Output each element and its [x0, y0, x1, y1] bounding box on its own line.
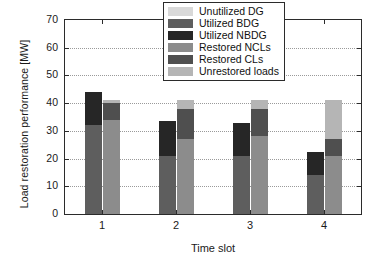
x-tick-mark: [102, 210, 103, 214]
y-tick-label: 40: [24, 96, 58, 108]
bar-segment: [307, 175, 324, 214]
y-tick-label: 60: [24, 41, 58, 53]
legend-swatch-restored-ncls: [168, 43, 193, 52]
bar-segment: [177, 139, 194, 214]
bar-segment: [233, 156, 250, 214]
legend-swatch-unutilized-dg: [168, 7, 193, 16]
legend-swatch-utilized-bdg: [168, 19, 193, 28]
bar-segment: [325, 156, 342, 214]
bar-segment: [85, 92, 102, 125]
legend-label: Restored CLs: [199, 54, 263, 65]
y-tick-label: 50: [24, 68, 58, 80]
y-tick-mark: [357, 131, 361, 132]
x-tick-label: 1: [87, 219, 117, 231]
bar-segment: [307, 152, 324, 176]
legend-item: Restored NCLs: [168, 42, 279, 53]
y-tick-mark: [65, 186, 69, 187]
y-tick-mark: [357, 103, 361, 104]
y-tick-mark: [65, 48, 69, 49]
legend-swatch-utilized-nbdg: [168, 31, 193, 40]
y-tick-label: 30: [24, 124, 58, 136]
legend-swatch-unrestored-loads: [168, 67, 193, 76]
bar-segment: [177, 100, 194, 108]
x-tick-label: 4: [309, 219, 339, 231]
bar-segment: [103, 100, 120, 103]
legend-label: Utilized BDG: [199, 18, 259, 29]
bar-segment: [251, 109, 268, 137]
bar-segment: [159, 121, 176, 156]
y-tick-mark: [357, 159, 361, 160]
chart-container: Load restoration performance [MW] Time s…: [0, 0, 370, 270]
y-tick-mark: [357, 48, 361, 49]
x-tick-mark: [102, 20, 103, 24]
bar-segment: [325, 139, 342, 156]
legend-item: Utilized NBDG: [168, 30, 279, 41]
x-tick-label: 2: [161, 219, 191, 231]
y-tick-label: 70: [24, 13, 58, 25]
y-tick-label: 20: [24, 152, 58, 164]
chart-legend: Unutilized DG Utilized BDG Utilized NBDG…: [163, 2, 285, 81]
x-tick-label: 3: [235, 219, 265, 231]
x-tick-mark: [324, 210, 325, 214]
bar-segment: [103, 103, 120, 120]
legend-label: Restored NCLs: [199, 42, 271, 53]
bar-segment: [85, 125, 102, 214]
legend-label: Utilized NBDG: [199, 30, 267, 41]
y-tick-mark: [65, 75, 69, 76]
bar-segment: [251, 100, 268, 108]
legend-item: Unrestored loads: [168, 66, 279, 77]
x-tick-mark: [324, 20, 325, 24]
legend-item: Utilized BDG: [168, 18, 279, 29]
y-tick-mark: [65, 103, 69, 104]
y-tick-label: 0: [24, 207, 58, 219]
bar-segment: [251, 136, 268, 214]
y-tick-mark: [357, 186, 361, 187]
x-axis-title: Time slot: [64, 242, 362, 254]
bar-segment: [233, 123, 250, 156]
bar-segment: [325, 100, 342, 139]
bar-segment: [103, 120, 120, 214]
bar-segment: [177, 109, 194, 139]
legend-label: Unrestored loads: [199, 66, 279, 77]
y-tick-mark: [65, 131, 69, 132]
legend-label: Unutilized DG: [199, 6, 264, 17]
x-tick-mark: [250, 210, 251, 214]
x-tick-mark: [176, 210, 177, 214]
legend-item: Restored CLs: [168, 54, 279, 65]
y-tick-mark: [357, 75, 361, 76]
legend-item: Unutilized DG: [168, 6, 279, 17]
y-tick-label: 10: [24, 179, 58, 191]
legend-swatch-restored-cls: [168, 55, 193, 64]
y-tick-mark: [65, 159, 69, 160]
bar-segment: [159, 156, 176, 214]
